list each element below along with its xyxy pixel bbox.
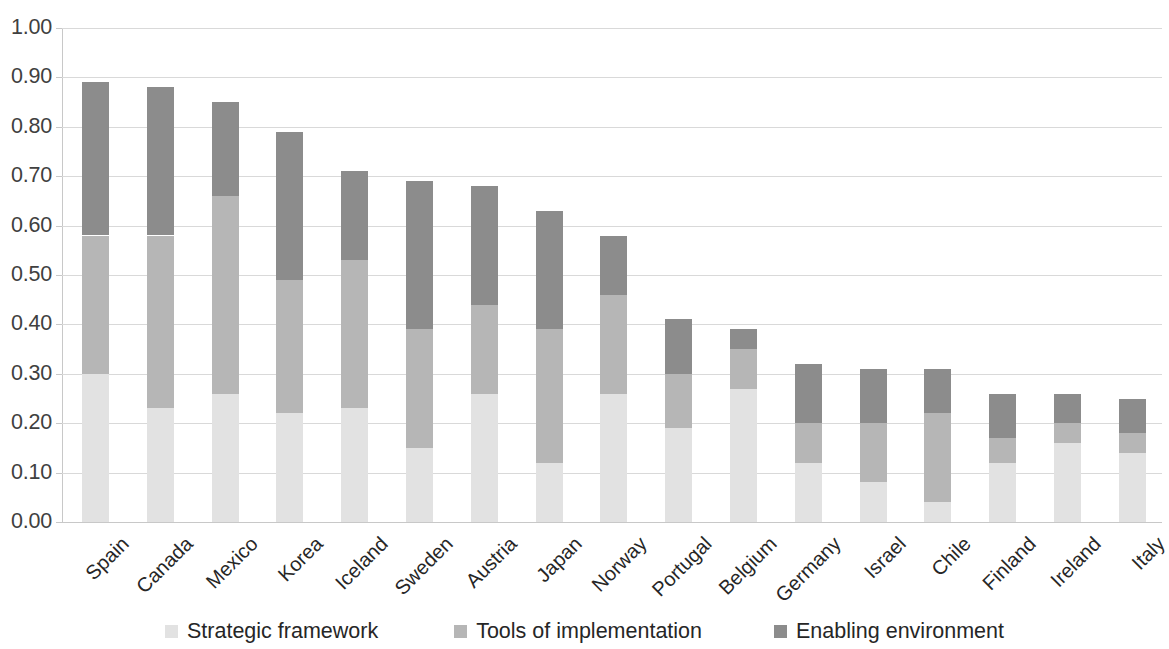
y-axis-tick-label: 0.20 (0, 412, 52, 434)
y-axis-tick-label: 0.90 (0, 66, 52, 88)
bar-segment[interactable] (924, 502, 951, 522)
plot-area (62, 28, 1162, 522)
bar-segment[interactable] (406, 448, 433, 522)
bar-group[interactable] (212, 28, 239, 522)
bar-group[interactable] (924, 28, 951, 522)
bar-group[interactable] (989, 28, 1016, 522)
x-axis-tick-label: Norway (588, 533, 650, 595)
bar-segment[interactable] (860, 482, 887, 522)
bar-segment[interactable] (471, 186, 498, 305)
legend-item-enabling-environment[interactable]: Enabling environment (774, 621, 1004, 643)
bar-segment[interactable] (341, 408, 368, 522)
bar-segment[interactable] (1054, 443, 1081, 522)
bar-segment[interactable] (1119, 399, 1146, 434)
bar-segment[interactable] (82, 374, 109, 522)
bar-segment[interactable] (147, 236, 174, 409)
bar-segment[interactable] (924, 413, 951, 502)
bar-segment[interactable] (665, 428, 692, 522)
x-axis-tick-label: Korea (274, 533, 326, 585)
x-axis-tick-label: Finland (978, 533, 1039, 594)
bar-group[interactable] (730, 28, 757, 522)
bar-group[interactable] (665, 28, 692, 522)
legend-item-label: Tools of implementation (476, 621, 702, 643)
bar-group[interactable] (1119, 28, 1146, 522)
bar-segment[interactable] (600, 236, 627, 295)
bar-segment[interactable] (989, 394, 1016, 438)
legend-swatch-icon (774, 625, 787, 638)
bar-group[interactable] (536, 28, 563, 522)
x-axis-tick-label: Iceland (331, 533, 391, 593)
y-axis-tick-label: 0.10 (0, 462, 52, 484)
bar-segment[interactable] (471, 394, 498, 522)
bar-segment[interactable] (600, 394, 627, 522)
y-axis-tick-label: 0.80 (0, 116, 52, 138)
x-axis-tick-label: Belgium (714, 533, 779, 598)
bar-segment[interactable] (406, 329, 433, 448)
legend-item-strategic-framework[interactable]: Strategic framework (165, 621, 378, 643)
y-axis-tick-label: 0.30 (0, 363, 52, 385)
bar-segment[interactable] (730, 389, 757, 522)
bar-segment[interactable] (600, 295, 627, 394)
bar-segment[interactable] (212, 394, 239, 522)
bar-group[interactable] (860, 28, 887, 522)
bar-group[interactable] (471, 28, 498, 522)
bar-segment[interactable] (1054, 423, 1081, 443)
bar-group[interactable] (82, 28, 109, 522)
bar-segment[interactable] (1119, 433, 1146, 453)
x-axis-tick-label: Israel (861, 533, 910, 582)
x-axis-tick-label: Ireland (1046, 533, 1103, 590)
bar-segment[interactable] (730, 349, 757, 389)
bar-segment[interactable] (276, 280, 303, 413)
bar-segment[interactable] (536, 463, 563, 522)
bar-group[interactable] (147, 28, 174, 522)
bar-group[interactable] (276, 28, 303, 522)
bar-segment[interactable] (795, 423, 822, 463)
bar-segment[interactable] (795, 463, 822, 522)
bar-segment[interactable] (82, 236, 109, 374)
bar-segment[interactable] (471, 305, 498, 394)
x-axis-tick-label: Chile (928, 533, 974, 579)
legend-item-label: Enabling environment (796, 621, 1004, 643)
y-axis-tick-label: 1.00 (0, 17, 52, 39)
bar-segment[interactable] (82, 82, 109, 235)
bar-segment[interactable] (406, 181, 433, 329)
stacked-bar-chart: 1.000.900.800.700.600.500.400.300.200.10… (0, 0, 1169, 649)
bar-segment[interactable] (795, 364, 822, 423)
bar-segment[interactable] (147, 408, 174, 522)
x-axis-tick-label: Germany (772, 533, 844, 605)
bar-segment[interactable] (860, 369, 887, 423)
bar-segment[interactable] (730, 329, 757, 349)
bar-segment[interactable] (147, 87, 174, 235)
bar-segment[interactable] (924, 369, 951, 413)
bar-group[interactable] (406, 28, 433, 522)
bar-segment[interactable] (341, 260, 368, 408)
x-axis-tick-label: Austria (462, 533, 520, 591)
bar-segment[interactable] (1119, 453, 1146, 522)
y-axis-tick-label: 0.50 (0, 264, 52, 286)
bar-segment[interactable] (536, 329, 563, 462)
bar-segment[interactable] (665, 319, 692, 373)
bar-segment[interactable] (276, 413, 303, 522)
bar-segment[interactable] (989, 463, 1016, 522)
bar-segment[interactable] (341, 171, 368, 260)
bar-segment[interactable] (276, 132, 303, 280)
x-axis-labels: SpainCanadaMexicoKoreaIcelandSwedenAustr… (62, 523, 1162, 618)
bar-segment[interactable] (1054, 394, 1081, 424)
y-axis-tick-label: 0.70 (0, 165, 52, 187)
legend-item-tools-of-implementation[interactable]: Tools of implementation (454, 621, 702, 643)
bar-segment[interactable] (665, 374, 692, 428)
legend-item-label: Strategic framework (187, 621, 378, 643)
bar-group[interactable] (341, 28, 368, 522)
x-axis-tick-label: Spain (81, 533, 131, 583)
bar-segment[interactable] (536, 211, 563, 330)
bar-segment[interactable] (212, 102, 239, 196)
bar-group[interactable] (795, 28, 822, 522)
bar-segment[interactable] (212, 196, 239, 394)
legend-swatch-icon (165, 625, 178, 638)
x-axis-tick-label: Japan (533, 533, 586, 586)
bar-segment[interactable] (989, 438, 1016, 463)
bar-group[interactable] (600, 28, 627, 522)
y-axis-labels: 1.000.900.800.700.600.500.400.300.200.10… (0, 0, 52, 649)
bar-segment[interactable] (860, 423, 887, 482)
bar-group[interactable] (1054, 28, 1081, 522)
